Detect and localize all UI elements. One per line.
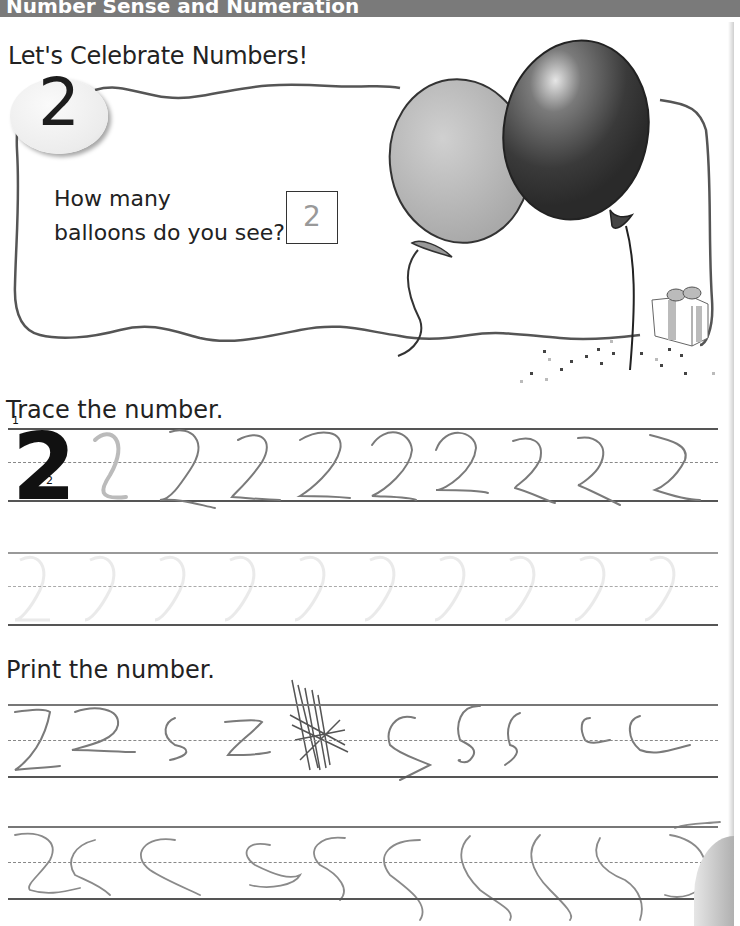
print-row-1[interactable] [8,704,718,780]
print-row-2[interactable] [8,826,718,902]
trace-row-2[interactable] [8,552,718,628]
print-label: Print the number. [6,656,215,684]
